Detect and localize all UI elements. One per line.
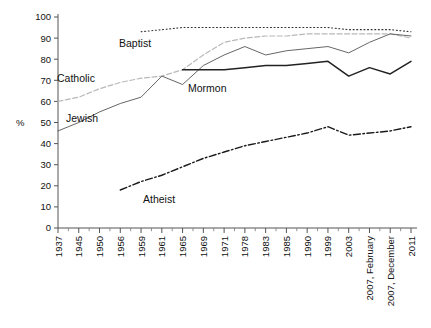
series-lines: [58, 28, 411, 190]
y-tick-label: 40: [40, 138, 51, 149]
x-tick-label: 1971: [219, 236, 230, 257]
x-tick-label: 2003: [343, 236, 354, 257]
y-axis-title: %: [16, 117, 25, 128]
x-tick-label: 1983: [260, 236, 271, 257]
x-tick-label: 1969: [198, 236, 209, 257]
y-tick-label: 100: [35, 11, 51, 22]
series-label-mormon: Mormon: [188, 82, 227, 94]
line-chart: 0102030405060708090100 19371945195019561…: [0, 0, 431, 328]
y-tick-label: 20: [40, 180, 51, 191]
series-label-catholic: Catholic: [57, 72, 95, 84]
x-tick-label: 1990: [302, 236, 313, 257]
x-tick-label: 1965: [177, 236, 188, 257]
x-tick-label: 2011: [406, 236, 417, 256]
series-line-atheist: [120, 127, 411, 190]
x-axis: 1937194519501956195919611965196919711978…: [53, 228, 418, 306]
x-tick-label: 1959: [136, 236, 147, 257]
series-label-baptist: Baptist: [119, 37, 151, 49]
x-tick-label: 1937: [53, 236, 64, 257]
series-label-jewish: Jewish: [66, 112, 98, 124]
chart-container: 0102030405060708090100 19371945195019561…: [0, 0, 431, 328]
x-tick-label: 1956: [115, 236, 126, 257]
y-axis: 0102030405060708090100: [35, 11, 58, 233]
x-tick-label: 1985: [281, 236, 292, 257]
x-tick-label: 1950: [94, 236, 105, 257]
y-tick-label: 0: [46, 222, 51, 233]
y-tick-label: 10: [40, 201, 51, 212]
y-tick-label: 30: [40, 159, 51, 170]
series-annotations: BaptistCatholicJewishMormonAtheist: [57, 37, 227, 205]
x-tick-label: 2007, December: [385, 236, 396, 306]
y-tick-label: 70: [40, 75, 51, 86]
y-tick-label: 60: [40, 96, 51, 107]
x-tick-label: 1945: [73, 236, 84, 257]
x-tick-label: 1999: [322, 236, 333, 257]
series-line-baptist: [141, 28, 411, 32]
y-tick-label: 80: [40, 54, 51, 65]
series-label-atheist: Atheist: [143, 193, 175, 205]
x-tick-label: 1978: [239, 236, 250, 257]
y-tick-label: 50: [40, 117, 51, 128]
series-line-mormon: [183, 61, 411, 76]
x-tick-label: 1961: [156, 236, 167, 257]
series-line-jewish: [58, 34, 411, 131]
series-line-catholic: [58, 34, 411, 102]
x-tick-label: 2007, February: [364, 236, 375, 301]
y-tick-label: 90: [40, 33, 51, 44]
